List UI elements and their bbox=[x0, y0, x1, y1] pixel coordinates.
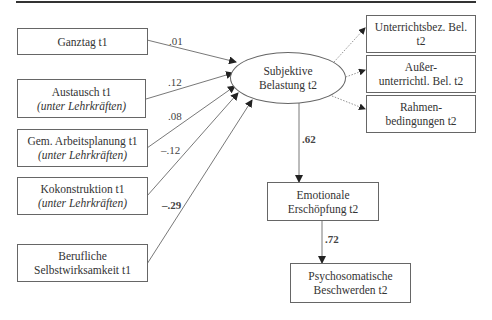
predictor-sublabel: Selbstwirksamkeit t1 bbox=[34, 263, 131, 277]
coef-kokonstruktion: –.12 bbox=[161, 144, 180, 156]
outcome-psychosomatische-beschwerden: Psychosomatische Beschwerden t2 bbox=[290, 263, 411, 303]
outcome-label-2: Beschwerden t2 bbox=[314, 283, 388, 297]
indicator-label: Rahmen- bbox=[400, 100, 442, 114]
outcome-emotionale-erschoepfung: Emotionale Erschöpfung t2 bbox=[267, 182, 379, 221]
indicator-label-2: bedingungen t2 bbox=[385, 114, 456, 128]
indicator-label-2: unterrichtl. Bel. t2 bbox=[379, 74, 463, 88]
predictor-label: Berufliche bbox=[58, 249, 107, 263]
predictor-label: Ganztag t1 bbox=[57, 35, 107, 49]
predictor-label: Austausch t1 bbox=[52, 85, 112, 99]
indicator-label-2: t2 bbox=[417, 34, 426, 48]
indicator-unterrichtsbezogen: Unterrichtsbez. Bel. t2 bbox=[366, 15, 476, 53]
indicator-label: Außer- bbox=[405, 60, 437, 74]
coef-arbeitsplanung: .08 bbox=[168, 110, 182, 122]
predictor-label: Kokonstruktion t1 bbox=[40, 182, 124, 196]
latent-subjektive-belastung: Subjektive Belastung t2 bbox=[230, 52, 346, 104]
predictor-kokonstruktion: Kokonstruktion t1 (unter Lehrkräften) bbox=[17, 177, 148, 215]
outcome-label: Emotionale bbox=[296, 188, 349, 202]
latent-label: Subjektive bbox=[263, 64, 312, 78]
latent-label-2: Belastung t2 bbox=[259, 78, 317, 92]
outcome-label-2: Erschöpfung t2 bbox=[288, 202, 359, 216]
predictor-sublabel: (unter Lehrkräften) bbox=[37, 99, 126, 113]
predictor-sublabel: (unter Lehrkräften) bbox=[38, 148, 127, 162]
indicator-rahmenbedingungen: Rahmen- bedingungen t2 bbox=[366, 95, 476, 133]
coef-psychosomatisch: .72 bbox=[325, 233, 339, 245]
coef-austausch: .12 bbox=[168, 76, 182, 88]
coef-selbstwirksamkeit: –.29 bbox=[162, 199, 181, 211]
predictor-selbstwirksamkeit: Berufliche Selbstwirksamkeit t1 bbox=[17, 244, 148, 282]
indicator-label: Unterrichtsbez. Bel. bbox=[375, 20, 467, 34]
predictor-austausch: Austausch t1 (unter Lehrkräften) bbox=[17, 79, 146, 118]
coef-ganztag: .01 bbox=[169, 35, 183, 47]
indicator-ausserunterrichtlich: Außer- unterrichtl. Bel. t2 bbox=[366, 55, 476, 93]
predictor-sublabel: (unter Lehrkräften) bbox=[38, 196, 127, 210]
predictor-label: Gem. Arbeitsplanung t1 bbox=[27, 134, 137, 148]
outcome-label: Psychosomatische bbox=[308, 269, 392, 283]
coef-erschoepfung: .62 bbox=[302, 133, 316, 145]
predictor-ganztag: Ganztag t1 bbox=[17, 28, 148, 55]
predictor-arbeitsplanung: Gem. Arbeitsplanung t1 (unter Lehrkräfte… bbox=[17, 129, 148, 167]
